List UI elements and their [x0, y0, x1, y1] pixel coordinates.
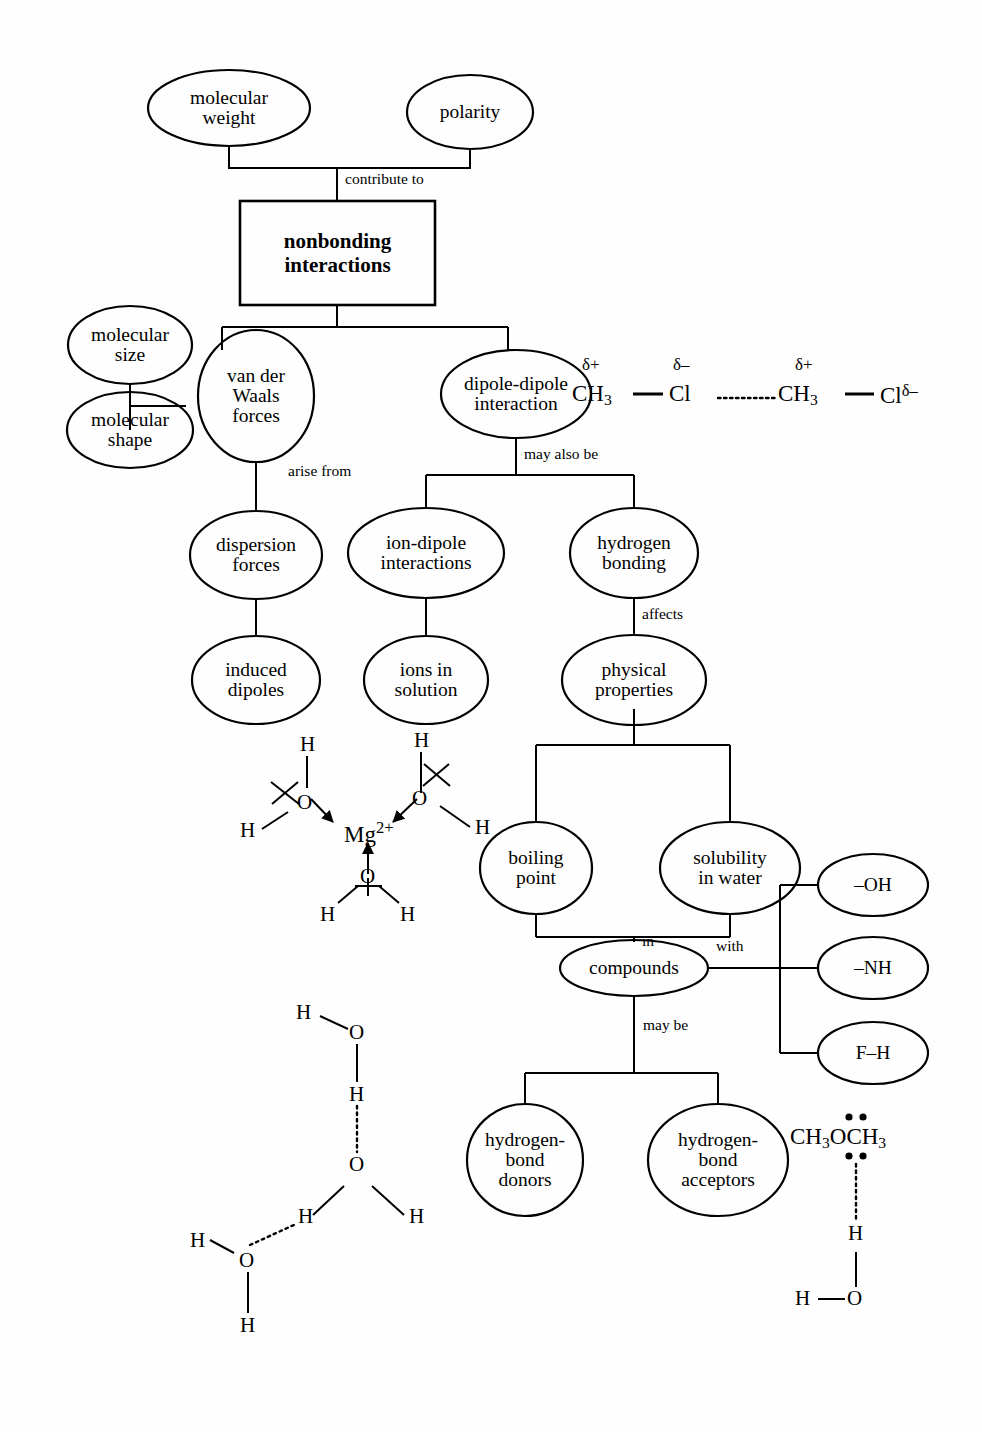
- mg-water-left-h-side: H: [240, 818, 255, 843]
- label-molecular-size[interactable]: molecular size: [70, 318, 190, 372]
- water-net-h5: H: [190, 1228, 205, 1253]
- label-group-oh[interactable]: –OH: [825, 870, 921, 900]
- mg-water-left-oxygen: O: [297, 790, 312, 815]
- label-boiling-point[interactable]: boiling point: [484, 841, 588, 895]
- concept-map-canvas: molecular weight polarity nonbonding int…: [0, 0, 982, 1432]
- delta-minus-cl-1: δ–: [673, 355, 690, 375]
- mg-water-left-h-top: H: [300, 732, 315, 757]
- ether-water-h-side: H: [795, 1286, 810, 1311]
- mg-water-right-h-top: H: [414, 728, 429, 753]
- bond-w3-oh: [210, 1240, 234, 1253]
- mg-atom: Mg2+: [344, 818, 394, 848]
- edge-label-may-also-be: may also be: [524, 445, 598, 463]
- formula-ch3-1: CH3: [572, 381, 612, 409]
- lonepair-x-right-1: [423, 764, 449, 786]
- label-nonbonding-interactions[interactable]: nonbonding interactions: [243, 226, 432, 280]
- label-dipole-dipole[interactable]: dipole-dipole interaction: [446, 367, 586, 421]
- label-compounds[interactable]: compounds: [565, 953, 703, 983]
- label-molecular-weight[interactable]: molecular weight: [149, 80, 309, 136]
- label-hydrogen-bond-acceptors[interactable]: hydrogen- bond acceptors: [650, 1120, 786, 1200]
- edge-label-affects: affects: [642, 605, 683, 623]
- water-net-h4: H: [409, 1204, 424, 1229]
- label-van-der-waals[interactable]: van der Waals forces: [206, 355, 306, 437]
- formula-cl-2: Clδ–: [880, 381, 918, 409]
- water-net-o2: O: [349, 1152, 364, 1177]
- bond-bottom-oh-right: [379, 886, 399, 903]
- delta-plus-ch3-2: δ+: [795, 355, 813, 375]
- edge-label-may-be: may be: [643, 1016, 688, 1034]
- label-induced-dipoles[interactable]: induced dipoles: [194, 653, 318, 707]
- label-ions-in-solution[interactable]: ions in solution: [366, 653, 486, 707]
- mg-water-right-h-side: H: [475, 815, 490, 840]
- formula-dimethyl-ether: CH3OCH3: [790, 1124, 886, 1152]
- mg-water-bottom-h-right: H: [400, 902, 415, 927]
- label-group-nh[interactable]: –NH: [825, 953, 921, 983]
- mg-water-bottom-h-left: H: [320, 902, 335, 927]
- label-polarity[interactable]: polarity: [408, 96, 532, 128]
- edge-label-in: in: [642, 932, 654, 950]
- bond-w2-oh-right: [372, 1186, 404, 1215]
- edge-label-contribute-to: contribute to: [345, 170, 424, 188]
- water-net-h3: H: [298, 1204, 313, 1229]
- hbond-w2-w3: [250, 1224, 296, 1245]
- label-molecular-shape[interactable]: molecular shape: [68, 403, 192, 457]
- label-hydrogen-bond-donors[interactable]: hydrogen- bond donors: [467, 1120, 583, 1200]
- label-solubility-in-water[interactable]: solubility in water: [662, 841, 798, 895]
- label-ion-dipole[interactable]: ion-dipole interactions: [352, 526, 500, 580]
- lonepair-x-left-2: [272, 782, 298, 804]
- edge-label-with: with: [716, 937, 744, 955]
- bond-mg-right-oh-side: [440, 806, 470, 827]
- edge-label-arise-from: arise from: [288, 462, 351, 480]
- water-net-h6: H: [240, 1313, 255, 1338]
- mg-water-right-oxygen: O: [412, 786, 427, 811]
- bond-bottom-oh-left: [338, 886, 358, 903]
- arrow-left-water-to-mg: [311, 799, 333, 822]
- label-physical-properties[interactable]: physical properties: [570, 653, 698, 707]
- delta-plus-ch3-1: δ+: [582, 355, 600, 375]
- bond-w2-oh-left: [313, 1186, 344, 1215]
- label-dispersion-forces[interactable]: dispersion forces: [192, 528, 320, 582]
- label-group-fh[interactable]: F–H: [825, 1038, 921, 1068]
- water-net-h1: H: [296, 1000, 311, 1025]
- ether-water-h-bonded: H: [848, 1221, 863, 1246]
- mg-water-bottom-oxygen: O: [360, 864, 375, 889]
- lonepair-x-left-1: [271, 782, 299, 804]
- water-net-o3: O: [239, 1248, 254, 1273]
- formula-ch3-2: CH3: [778, 381, 818, 409]
- bond-mg-left-oh-side: [262, 812, 288, 829]
- diagram-shapes-layer: [0, 0, 982, 1432]
- ether-water-oxygen: O: [847, 1286, 862, 1311]
- formula-cl-1: Cl: [669, 381, 691, 407]
- lonepair-x-right-2: [424, 764, 450, 786]
- water-net-h2: H: [349, 1082, 364, 1107]
- label-hydrogen-bonding[interactable]: hydrogen bonding: [572, 526, 696, 580]
- bond-w1-oh: [320, 1016, 348, 1029]
- water-net-o1: O: [349, 1020, 364, 1045]
